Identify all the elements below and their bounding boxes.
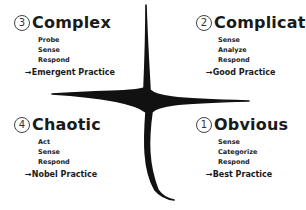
step: Sense bbox=[218, 137, 288, 147]
domain-complex: 3Complex Probe Sense Respond →Emergent P… bbox=[14, 14, 115, 77]
step: Respond bbox=[38, 157, 101, 167]
domain-complicated: 2Complicated Sense Analyze Respond →Good… bbox=[196, 14, 306, 77]
step: Act bbox=[38, 137, 101, 147]
step: Respond bbox=[38, 55, 115, 65]
domain-number-badge: 4 bbox=[14, 117, 30, 133]
practice-label: →Emergent Practice bbox=[25, 68, 115, 77]
domain-obvious: 1Obvious Sense Categorize Respond →Best … bbox=[196, 116, 288, 179]
practice-label: →Best Practice bbox=[206, 170, 288, 179]
practice-label: →Good Practice bbox=[206, 68, 306, 77]
domain-title: 3Complex bbox=[14, 14, 115, 32]
domain-number-badge: 2 bbox=[196, 15, 212, 31]
practice-label: →Nobel Practice bbox=[25, 170, 101, 179]
step: Analyze bbox=[218, 45, 306, 55]
domain-number-badge: 1 bbox=[196, 117, 212, 133]
domain-chaotic: 4Chaotic Act Sense Respond →Nobel Practi… bbox=[14, 116, 101, 179]
step: Sense bbox=[218, 35, 306, 45]
step: Sense bbox=[38, 147, 101, 157]
domain-title: 2Complicated bbox=[196, 14, 306, 32]
step: Respond bbox=[218, 55, 306, 65]
domain-title: 1Obvious bbox=[196, 116, 288, 134]
step: Probe bbox=[38, 35, 115, 45]
step: Categorize bbox=[218, 147, 288, 157]
step: Sense bbox=[38, 45, 115, 55]
domain-title: 4Chaotic bbox=[14, 116, 101, 134]
step: Respond bbox=[218, 157, 288, 167]
domain-number-badge: 3 bbox=[14, 15, 30, 31]
